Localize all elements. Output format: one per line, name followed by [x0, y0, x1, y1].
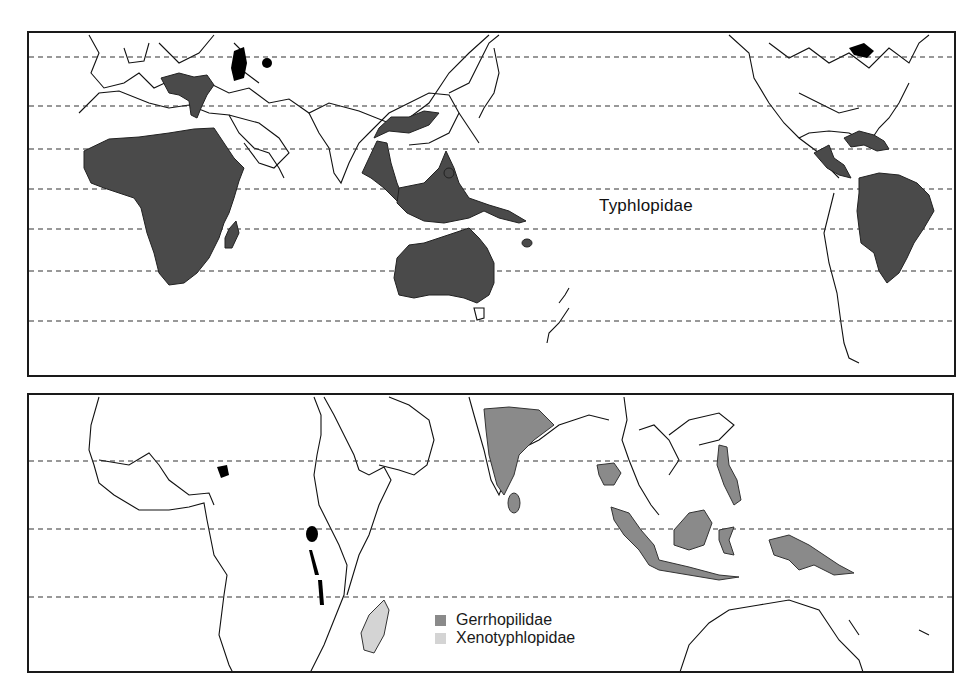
gerrhopilidae-swatch	[435, 615, 446, 626]
gerrhopilidae-range	[484, 407, 854, 580]
typhlopidae-map-panel: Typhlopidae	[27, 31, 956, 377]
legend-label: Gerrhopilidae	[456, 611, 552, 629]
legend-item-xenotyphlopidae: Xenotyphlopidae	[435, 629, 575, 647]
lakes	[231, 43, 874, 81]
typhlopidae-label: Typhlopidae	[599, 196, 693, 216]
gerrhopilidae-xenotyphlopidae-map-panel: Gerrhopilidae Xenotyphlopidae	[27, 393, 954, 673]
xenotyphlopidae-range	[361, 600, 389, 653]
legend: Gerrhopilidae Xenotyphlopidae	[435, 611, 575, 647]
typhlopidae-range	[84, 73, 934, 303]
lakes	[217, 465, 324, 605]
legend-item-gerrhopilidae: Gerrhopilidae	[435, 611, 575, 629]
world-map	[29, 33, 956, 377]
xenotyphlopidae-swatch	[435, 633, 446, 644]
legend-label: Xenotyphlopidae	[456, 629, 575, 647]
